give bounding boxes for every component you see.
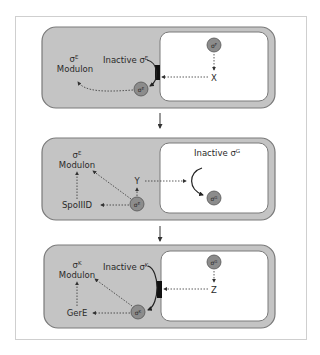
signal-z: Z (211, 285, 217, 295)
inactive-sigma-g-label: Inactive σG (194, 148, 240, 158)
modulon-label: Modulon (59, 270, 95, 280)
inactive-sigma-k-label: Inactive σK (103, 262, 149, 272)
inactive-sigma-label: Inactive σE (103, 55, 149, 65)
panel-2: σE Modulon SpoIIID σE Y Inactive σG σG (42, 138, 275, 220)
spoiiid-label: SpoIIID (62, 200, 93, 210)
modulon-label: Modulon (59, 160, 95, 170)
modulon-label: Modulon (57, 64, 93, 74)
sporulation-cascade-diagram: σE Modulon Inactive σE σE σF X σE Modulo… (0, 0, 320, 355)
panel-3: σK Modulon Inactive σK σK GerE σG Z (44, 245, 275, 328)
panel-1: σE Modulon Inactive σE σE σF X (42, 27, 275, 108)
gere-label: GerE (67, 308, 88, 318)
signal-x: X (211, 73, 217, 83)
signal-y: Y (133, 176, 140, 186)
membrane-block (157, 281, 162, 298)
